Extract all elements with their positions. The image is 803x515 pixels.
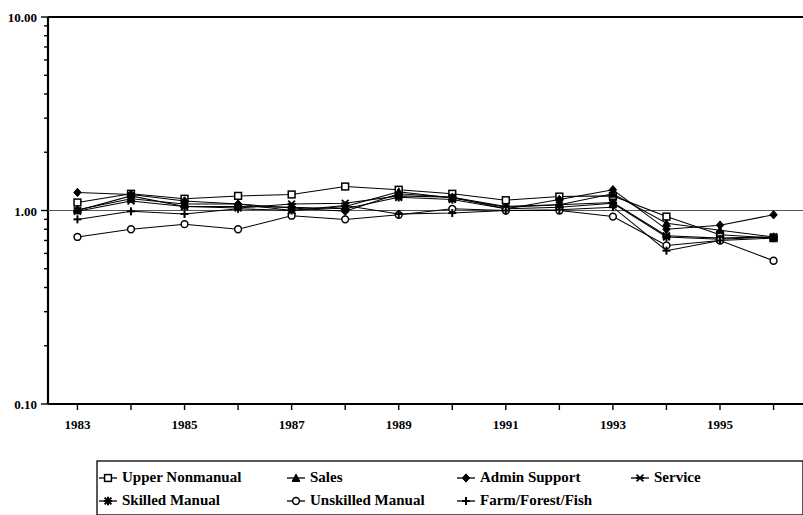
log-line-chart: 10.001.000.10 19831985198719891991199319… xyxy=(0,0,803,515)
x-axis-tick-label: 1985 xyxy=(172,417,199,432)
data-point-marker xyxy=(235,226,242,233)
data-point-marker xyxy=(73,215,81,223)
legend-marker-icon xyxy=(293,498,300,505)
legend-item[interactable]: Service xyxy=(631,469,701,485)
chart-legend: Upper NonmanualSalesAdmin SupportService… xyxy=(97,461,803,515)
legend-item[interactable]: Upper Nonmanual xyxy=(99,469,241,485)
data-point-marker xyxy=(448,195,456,203)
legend-item[interactable]: Admin Support xyxy=(457,469,580,485)
x-axis-tick-label: 1993 xyxy=(600,417,627,432)
y-axis-tick-label: 0.10 xyxy=(14,397,37,412)
data-point-marker xyxy=(342,216,349,223)
data-point-marker xyxy=(74,234,81,241)
data-point-marker xyxy=(395,193,403,201)
legend-item-label: Skilled Manual xyxy=(122,492,220,508)
legend-item[interactable]: Farm/Forest/Fish xyxy=(457,492,593,508)
data-point-marker xyxy=(662,233,670,241)
legend-marker-icon xyxy=(104,497,112,505)
x-axis-tick-label: 1983 xyxy=(64,417,91,432)
data-point-marker xyxy=(235,192,242,199)
data-point-marker xyxy=(610,213,617,220)
y-axis-tick-label: 1.00 xyxy=(14,204,37,219)
legend-marker-icon xyxy=(462,497,470,505)
legend-item-label: Upper Nonmanual xyxy=(122,469,241,485)
legend-marker-icon xyxy=(636,475,644,482)
data-point-marker xyxy=(74,188,81,196)
legend-item-label: Unskilled Manual xyxy=(310,492,425,508)
legend-item-label: Service xyxy=(654,469,701,485)
data-point-marker xyxy=(288,191,295,198)
x-axis-tick-label: 1989 xyxy=(386,417,413,432)
series-farm-forest-fish xyxy=(73,202,777,255)
data-point-marker xyxy=(127,207,135,215)
legend-item-label: Sales xyxy=(310,469,343,485)
x-axis-tick-label: 1987 xyxy=(279,417,306,432)
legend-item[interactable]: Sales xyxy=(287,469,343,485)
x-axis-tick-label: 1995 xyxy=(707,417,734,432)
legend-item-label: Farm/Forest/Fish xyxy=(480,492,593,508)
data-point-marker xyxy=(342,183,349,190)
chart-canvas: 10.001.000.10 19831985198719891991199319… xyxy=(0,0,803,515)
legend-item[interactable]: Unskilled Manual xyxy=(287,492,425,508)
data-point-marker xyxy=(181,210,189,218)
data-point-marker xyxy=(127,192,135,200)
y-axis: 10.001.000.10 xyxy=(8,10,48,412)
data-point-marker xyxy=(128,226,135,233)
data-point-marker xyxy=(181,221,188,228)
series-admin-support xyxy=(74,186,777,234)
data-point-marker xyxy=(716,221,723,229)
data-point-marker xyxy=(770,211,777,219)
data-point-marker xyxy=(770,257,777,264)
legend-item-label: Admin Support xyxy=(480,469,580,485)
data-point-marker xyxy=(180,202,188,210)
series-unskilled-manual xyxy=(74,205,777,264)
data-point-marker xyxy=(73,206,81,214)
legend-marker-icon xyxy=(462,474,469,482)
legend-item[interactable]: Skilled Manual xyxy=(99,492,220,508)
x-axis-tick-label: 1991 xyxy=(493,417,519,432)
series-layer xyxy=(73,183,777,264)
legend-marker-icon xyxy=(105,475,112,482)
y-axis-tick-label: 10.00 xyxy=(8,10,37,25)
